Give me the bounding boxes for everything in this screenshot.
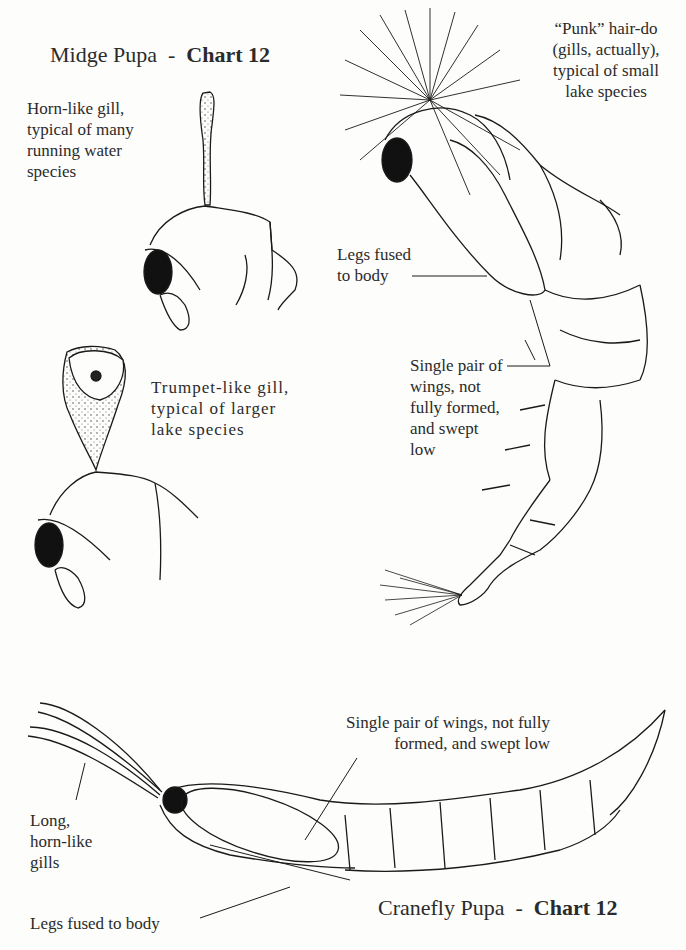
label-line: gills: [30, 852, 92, 873]
label-line: lake species: [151, 419, 289, 440]
label-line: Single pair of wings, not fully: [305, 712, 550, 733]
label-line: running water: [27, 140, 134, 161]
title-separator: -: [515, 895, 522, 920]
label-line: horn-like: [30, 831, 92, 852]
cranefly-chart-number: Chart 12: [534, 895, 618, 920]
midge-legs-label: Legs fused to body: [337, 244, 411, 286]
label-line: formed, and swept low: [305, 733, 550, 754]
title-separator: -: [168, 42, 175, 67]
label-line: Long,: [30, 810, 92, 831]
label-line: Trumpet-like gill,: [151, 377, 289, 398]
label-line: Horn-like gill,: [27, 98, 134, 119]
midge-wings-label: Single pair of wings, not fully formed, …: [410, 355, 503, 460]
trumpet-gill-label: Trumpet-like gill, typical of larger lak…: [151, 377, 289, 440]
cranefly-gills-label: Long, horn-like gills: [30, 810, 92, 873]
label-line: low: [410, 439, 503, 460]
label-line: wings, not: [410, 376, 503, 397]
label-line: typical of many: [27, 119, 134, 140]
label-line: Legs fused to body: [30, 913, 160, 934]
cranefly-chart-title: Cranefly Pupa - Chart 12: [378, 895, 618, 921]
label-line: and swept: [410, 418, 503, 439]
midge-title-text: Midge Pupa: [50, 42, 157, 67]
label-line: to body: [337, 265, 411, 286]
horn-gill-head-drawing: [144, 92, 297, 330]
midge-chart-number: Chart 12: [186, 42, 270, 67]
cranefly-wings-label: Single pair of wings, not fully formed, …: [305, 712, 550, 754]
label-line: species: [27, 161, 134, 182]
label-line: Single pair of: [410, 355, 503, 376]
label-line: typical of larger: [151, 398, 289, 419]
horn-gill-label: Horn-like gill, typical of many running …: [27, 98, 134, 182]
label-line: fully formed,: [410, 397, 503, 418]
label-line: lake species: [536, 81, 676, 102]
midge-chart-title: Midge Pupa - Chart 12: [50, 42, 270, 68]
label-line: “Punk” hair-do: [536, 18, 676, 39]
label-line: typical of small: [536, 60, 676, 81]
punk-gill-label: “Punk” hair-do (gills, actually), typica…: [536, 18, 676, 102]
cranefly-legs-label: Legs fused to body: [30, 913, 160, 934]
label-line: (gills, actually),: [536, 39, 676, 60]
cranefly-title-text: Cranefly Pupa: [378, 895, 504, 920]
label-line: Legs fused: [337, 244, 411, 265]
